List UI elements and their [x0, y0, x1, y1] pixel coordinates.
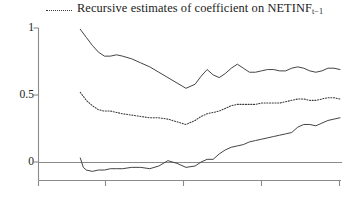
series-line-lower-confidence-band: [80, 118, 340, 172]
chart-canvas: [0, 0, 346, 197]
plot-area: 1 0.5 0: [0, 0, 346, 197]
x-axis-ticks: [39, 181, 340, 187]
figure-root: Recursive estimates of coefficient on NE…: [0, 0, 346, 197]
series-line-recursive-point-estimate: [80, 92, 340, 124]
series-line-upper-confidence-band: [80, 29, 340, 88]
